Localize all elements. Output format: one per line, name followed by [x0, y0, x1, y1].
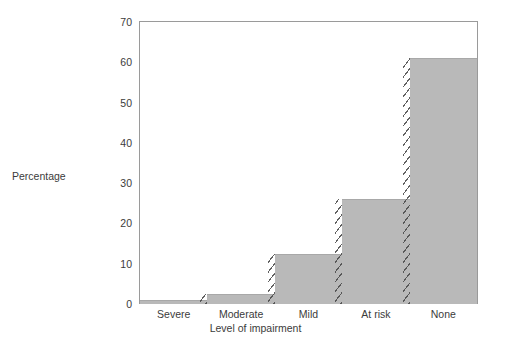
- x-axis-title: Level of impairment: [0, 322, 511, 334]
- y-axis-tick-label: 30: [106, 178, 132, 188]
- bar: [342, 199, 409, 304]
- x-axis-tick-label: At risk: [342, 308, 409, 320]
- y-axis-tick-label: 0: [106, 299, 132, 309]
- x-axis-tick-label: Mild: [275, 308, 342, 320]
- y-axis-tick-label: 50: [106, 98, 132, 108]
- x-axis-tick-label: Moderate: [207, 308, 274, 320]
- y-axis-tick-label: 70: [106, 17, 132, 27]
- bar: [207, 294, 274, 304]
- y-axis-tick-label: 10: [106, 259, 132, 269]
- bar: [410, 58, 477, 304]
- x-axis-tick-label: None: [410, 308, 477, 320]
- y-axis-tick-label: 40: [106, 138, 132, 148]
- y-axis-tick-label: 60: [106, 57, 132, 67]
- bar-chart: Percentage 010203040506070 SevereModerat…: [0, 0, 511, 343]
- y-axis-tick-label: 20: [106, 218, 132, 228]
- bar: [140, 300, 207, 304]
- bar-series: [140, 22, 477, 304]
- y-axis-title: Percentage: [12, 170, 66, 182]
- x-axis-tick-label: Severe: [140, 308, 207, 320]
- bar: [275, 254, 342, 304]
